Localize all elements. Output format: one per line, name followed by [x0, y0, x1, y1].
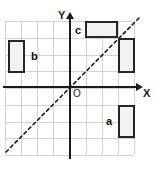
rect-a-label: a — [106, 116, 112, 127]
x-axis-arrow-icon — [136, 83, 143, 91]
rect-right — [118, 38, 135, 73]
x-axis-label: X — [143, 88, 150, 99]
rect-c-label: c — [75, 25, 81, 36]
origin-label: O — [73, 89, 81, 99]
rect-b — [8, 40, 25, 73]
x-axis — [3, 86, 138, 88]
rect-a — [118, 105, 135, 138]
y-axis-label: Y — [58, 10, 65, 21]
coordinate-plane-figure: Y X O bca — [0, 0, 155, 169]
y-axis — [69, 17, 71, 159]
rect-b-label: b — [31, 51, 38, 62]
y-axis-arrow-icon — [66, 12, 74, 19]
rect-c — [85, 21, 118, 38]
